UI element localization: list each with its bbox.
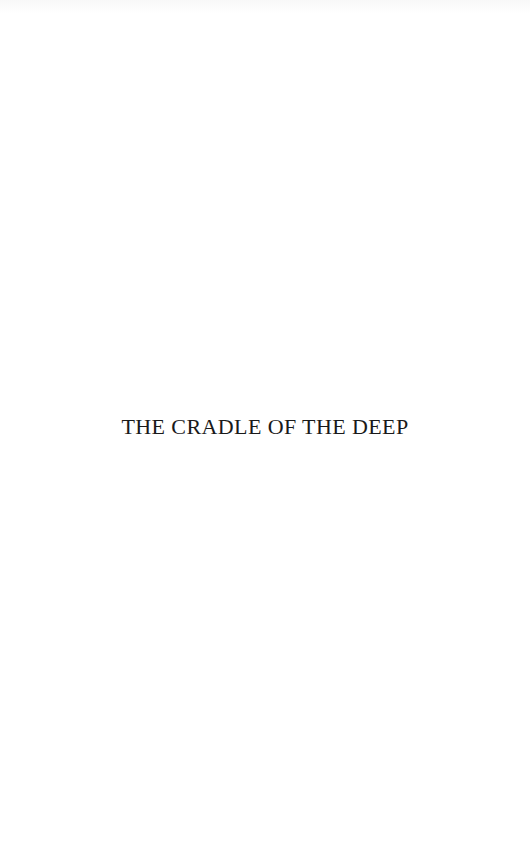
- half-title: THE CRADLE OF THE DEEP: [0, 414, 530, 440]
- book-page: THE CRADLE OF THE DEEP: [0, 0, 530, 850]
- scan-bleed-through: [0, 0, 530, 14]
